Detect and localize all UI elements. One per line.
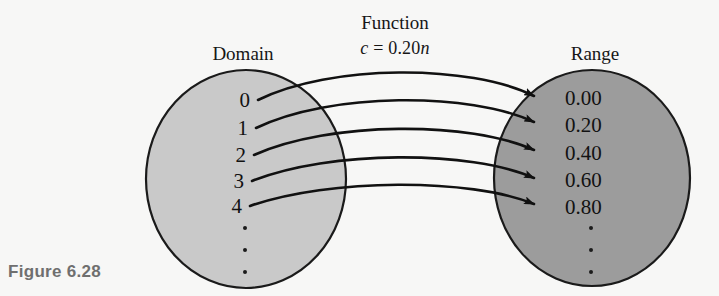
range-item-3: 0.60 — [565, 170, 641, 191]
range-continuation-dot-2 — [589, 248, 593, 252]
domain-item-0: 0 — [216, 90, 250, 111]
range-item-2: 0.40 — [565, 143, 641, 164]
domain-continuation-dot-2 — [243, 248, 247, 252]
figure-caption: Figure 6.28 — [8, 262, 101, 282]
equation-coefficient: 0.20 — [388, 38, 420, 58]
function-equation: c = 0.20n — [329, 36, 461, 60]
equation-variable-out: n — [421, 38, 430, 58]
domain-continuation-dot-3 — [243, 270, 247, 274]
equation-equals-sign: = — [368, 38, 388, 58]
domain-item-1: 1 — [214, 118, 248, 139]
figure-container: Domain Function c = 0.20n Range 0 1 2 3 … — [0, 0, 719, 296]
function-title: Function — [361, 12, 429, 33]
range-item-4: 0.80 — [565, 197, 641, 218]
domain-item-3: 3 — [210, 171, 244, 192]
domain-continuation-dot-1 — [243, 226, 247, 230]
domain-item-2: 2 — [212, 145, 246, 166]
function-label-group: Function c = 0.20n — [329, 10, 461, 60]
domain-label: Domain — [188, 44, 298, 63]
range-item-0: 0.00 — [565, 88, 641, 109]
range-continuation-dot-1 — [589, 226, 593, 230]
domain-item-4: 4 — [208, 196, 242, 217]
range-item-1: 0.20 — [565, 115, 641, 136]
range-label: Range — [540, 44, 650, 63]
range-continuation-dot-3 — [589, 270, 593, 274]
